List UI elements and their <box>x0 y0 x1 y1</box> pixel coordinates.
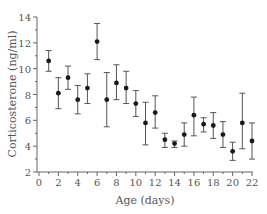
marker-dot <box>46 59 51 64</box>
x-tick-label: 14 <box>168 177 181 188</box>
data-point <box>210 113 216 139</box>
data-point <box>104 73 110 127</box>
axes <box>37 17 253 172</box>
data-point <box>55 78 61 109</box>
x-tick-label: 20 <box>226 177 239 188</box>
x-tick-label: 16 <box>188 177 201 188</box>
chart-svg: 2468101214 0246810121416182022 Corticost… <box>0 0 267 214</box>
marker-dot <box>172 141 177 146</box>
marker-dot <box>56 91 61 96</box>
data-point <box>94 23 100 59</box>
y-tick-label: 4 <box>25 141 31 152</box>
x-tick-label: 0 <box>36 177 42 188</box>
marker-dot <box>162 137 167 142</box>
data-point <box>162 133 168 147</box>
marker-dot <box>211 123 216 128</box>
x-tick-label: 12 <box>149 177 162 188</box>
data-point <box>191 97 197 136</box>
marker-dot <box>182 132 187 137</box>
data-point <box>181 123 187 146</box>
x-tick-label: 8 <box>113 177 119 188</box>
marker-dot <box>75 97 80 102</box>
x-tick-label: 6 <box>94 177 100 188</box>
data-point <box>201 118 207 132</box>
marker-dot <box>124 86 129 91</box>
y-tick-label: 6 <box>25 115 31 126</box>
y-tick-label: 14 <box>18 12 31 23</box>
data-point <box>46 51 52 72</box>
data-points <box>46 23 255 160</box>
x-axis-label: Age (days) <box>114 194 174 207</box>
data-point <box>143 102 149 145</box>
data-point <box>113 65 119 100</box>
marker-dot <box>133 101 138 106</box>
marker-dot <box>240 121 245 126</box>
y-axis-label: Corticosterone (ng/ml) <box>6 31 19 158</box>
x-tick-label: 22 <box>246 177 259 188</box>
chart-container: 2468101214 0246810121416182022 Corticost… <box>0 0 267 214</box>
y-tick-label: 10 <box>18 64 31 75</box>
y-tick-label: 8 <box>25 90 31 101</box>
x-tick-label: 4 <box>75 177 81 188</box>
x-tick-label: 10 <box>129 177 142 188</box>
marker-dot <box>201 122 206 127</box>
marker-dot <box>66 75 71 80</box>
data-point <box>172 141 178 147</box>
y-tick-label: 12 <box>18 38 31 49</box>
data-point <box>133 91 139 117</box>
marker-dot <box>95 39 100 44</box>
x-tick-label: 2 <box>55 177 61 188</box>
x-axis-ticks: 0246810121416182022 <box>36 172 259 188</box>
marker-dot <box>230 149 235 154</box>
x-tick-label: 18 <box>207 177 220 188</box>
data-point <box>220 122 226 148</box>
marker-dot <box>104 97 109 102</box>
data-point <box>249 123 255 159</box>
data-point <box>84 74 90 104</box>
marker-dot <box>153 110 158 115</box>
data-point <box>230 142 236 160</box>
y-axis-ticks: 2468101214 <box>18 12 37 178</box>
data-point <box>123 71 129 103</box>
marker-dot <box>85 86 90 91</box>
marker-dot <box>250 139 255 144</box>
data-point <box>65 66 71 89</box>
marker-dot <box>143 121 148 126</box>
marker-dot <box>114 80 119 85</box>
marker-dot <box>192 113 197 118</box>
data-point <box>152 96 158 128</box>
data-point <box>75 85 81 113</box>
marker-dot <box>221 132 226 137</box>
y-tick-label: 2 <box>25 167 31 178</box>
data-point <box>239 93 245 149</box>
